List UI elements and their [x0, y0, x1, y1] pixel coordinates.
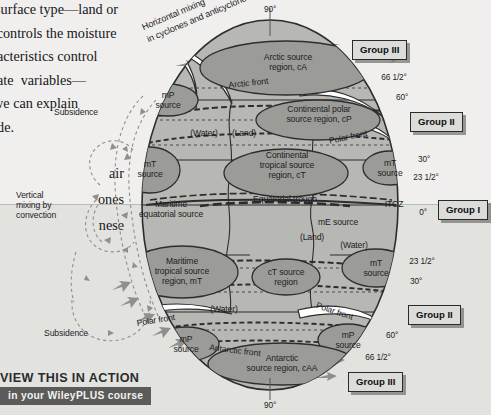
wileyplus-banner[interactable]: VIEW THIS IN ACTION in your WileyPLUS co… [0, 371, 170, 405]
group-ii-south-box[interactable]: Group II [408, 305, 461, 325]
latitude-north-90: 90° [252, 4, 288, 14]
latitude-south-60: 60° [378, 330, 406, 340]
region-label-maritime-equatorial-source: Maritime equatorial source [118, 199, 224, 219]
latitude-equator-0: 0° [412, 207, 434, 217]
equatorial-trough-label: Equatorial trough [230, 194, 340, 204]
latitude-south-90: 90° [252, 400, 288, 410]
banner-line-1: VIEW THIS IN ACTION [0, 371, 170, 385]
region-label-mp-source-upper-left: mP source [144, 90, 192, 110]
surface-label-water-lower: (Water) [200, 304, 248, 314]
me-source-label: mE source [318, 217, 388, 227]
group-iii-south-box[interactable]: Group III [348, 372, 403, 392]
surface-label-water-upper: (Water) [180, 128, 228, 138]
region-label-arctic-source-region: Arctic source region, cA [236, 52, 340, 72]
region-label-maritime-tropical-source-region: Maritime tropical source region, mT [130, 256, 234, 287]
region-label-mp-source-lower-left: mP source [162, 334, 210, 354]
group-i-box[interactable]: Group I [438, 200, 488, 220]
latitude-south-66h: 66 1/2° [356, 352, 400, 362]
latitude-north-60: 60° [386, 92, 418, 102]
surface-label-land-upper: (Land) [222, 128, 266, 138]
latitude-south-30: 30° [402, 276, 430, 286]
latitude-north-30: 30° [410, 154, 438, 164]
group-ii-north-box[interactable]: Group II [410, 112, 463, 132]
surface-label-water-right: (Water) [330, 240, 378, 250]
region-label-mt-source-left: mT source [126, 159, 174, 179]
latitude-north-66h: 66 1/2° [372, 72, 416, 82]
region-label-mt-source-right-lower: mT source [352, 258, 400, 278]
region-label-mp-source-lower-right: mP source [324, 330, 372, 350]
region-label-continental-tropical-source-region: Continental tropical source region, cT [238, 150, 336, 181]
subsidence-top-label: Subsidence [40, 107, 112, 117]
region-label-ct-source-region: cT source region [252, 267, 320, 287]
subsidence-bottom-label: Subsidence [30, 328, 102, 338]
banner-line-2: in your WileyPLUS course [0, 387, 151, 405]
latitude-south-23h: 23 1/2° [400, 256, 444, 266]
region-label-continental-polar-source-region: Continental polar source region, cP [262, 104, 376, 124]
surface-label-land-lower: (Land) [290, 232, 334, 242]
itcz-label: ITCZ [376, 199, 412, 209]
vertical-mixing-label: Vertical mixing by convection [16, 190, 94, 221]
latitude-north-23h: 23 1/2° [404, 172, 448, 182]
group-iii-north-box[interactable]: Group III [352, 40, 407, 60]
